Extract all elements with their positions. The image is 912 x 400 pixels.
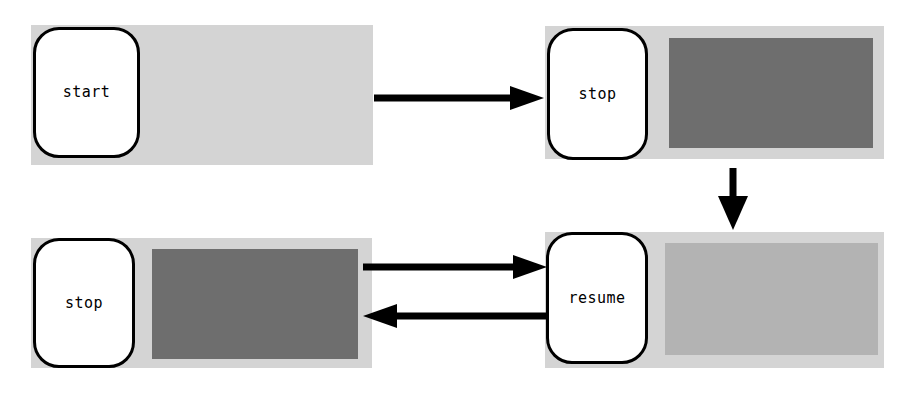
arrow-stopbottom-to-resume-icon: [363, 255, 547, 279]
node-fill-rect: [665, 243, 878, 355]
state-node-start[interactable]: start: [31, 25, 373, 165]
arrow-stop-to-resume-icon: [716, 168, 750, 230]
state-node-stop-bottom[interactable]: stop: [31, 238, 372, 368]
state-capsule-stop-bottom[interactable]: stop: [33, 238, 135, 368]
arrow-resume-to-stopbottom-icon: [360, 304, 547, 328]
state-label-stop-top: stop: [578, 87, 616, 102]
node-fill-rect: [152, 249, 358, 359]
state-label-start: start: [63, 85, 111, 100]
state-capsule-stop-top[interactable]: stop: [547, 28, 648, 160]
state-label-resume: resume: [568, 291, 625, 306]
state-label-stop-bottom: stop: [65, 296, 103, 311]
state-capsule-start[interactable]: start: [33, 27, 140, 158]
state-node-resume[interactable]: resume: [545, 232, 884, 368]
arrow-start-to-stop-icon: [374, 86, 544, 110]
diagram-canvas: start stop stop resume: [0, 0, 912, 400]
state-node-stop-top[interactable]: stop: [545, 26, 884, 159]
node-fill-rect: [669, 38, 873, 148]
state-capsule-resume[interactable]: resume: [546, 232, 648, 364]
